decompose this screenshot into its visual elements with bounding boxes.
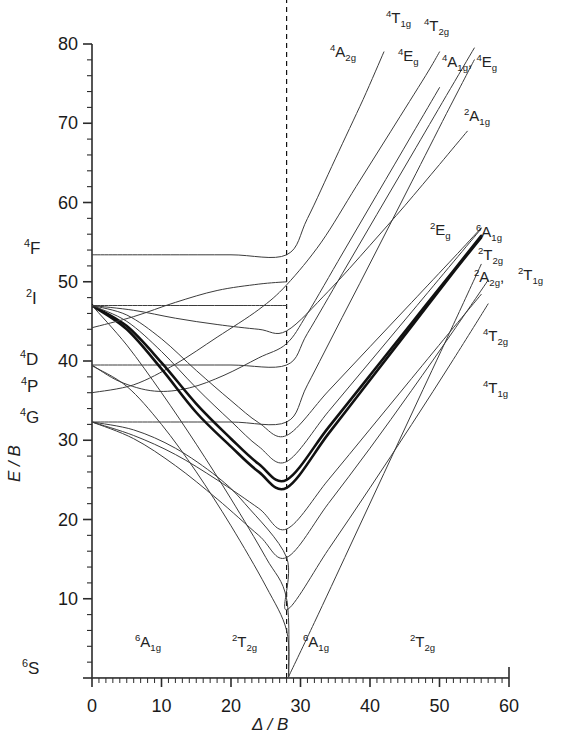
- curve-4Eg_D: [92, 88, 440, 392]
- x-tick-label: 10: [151, 696, 171, 716]
- term-label-4G: 4G: [20, 409, 39, 426]
- curve-label-2Eg: 2Eg: [430, 222, 451, 237]
- x-tick-label: 0: [87, 696, 97, 716]
- ground-label-2T2g-mid: 2T2g: [232, 634, 257, 649]
- curve-label-2T1g: 2T1g: [518, 267, 543, 282]
- ground-label-6A1g-mid: 6A1g: [303, 634, 329, 649]
- y-tick-label: 40: [58, 351, 78, 371]
- curve-label-6A1g-right: 6A1g: [476, 224, 502, 239]
- y-tick-label: 60: [58, 193, 78, 213]
- x-tick-label: 40: [360, 696, 380, 716]
- curve-label-4T2g-top: 4T2g: [424, 18, 449, 33]
- curve-label-4T2g-low: 4T2g: [483, 328, 508, 343]
- y-tick-label: 80: [58, 34, 78, 54]
- y-tick-label: 30: [58, 430, 78, 450]
- curve-4A1g4Eg_G: [92, 60, 474, 425]
- curve-label-2A2g: 2A2g,: [474, 269, 504, 284]
- x-tick-label: 30: [290, 696, 310, 716]
- y-tick-label: 10: [58, 589, 78, 609]
- curve-label-4A1g-4Eg: 4A1g, 4Eg: [442, 54, 497, 69]
- y-axis-title: E / B: [6, 432, 23, 496]
- term-label-2I: 2I: [26, 290, 37, 307]
- y-tick-label: 70: [58, 113, 78, 133]
- term-label-4F: 4F: [24, 240, 40, 257]
- ground-label-6A1g-left: 6A1g: [135, 634, 161, 649]
- curve-6A1g_rise: [289, 264, 482, 676]
- curve-label-4Eg: 4Eg: [398, 48, 419, 63]
- curve-label-2A1g: 2A1g: [464, 108, 490, 123]
- ground-label-2T2g-right: 2T2g: [410, 634, 435, 649]
- term-label-4D: 4D: [20, 351, 38, 368]
- term-label-6S: 6S: [22, 660, 39, 677]
- x-axis-title: Δ / B: [252, 716, 288, 733]
- x-tick-label: 60: [499, 696, 519, 716]
- y-tick-label: 20: [58, 510, 78, 530]
- curve-label-2T2g-right: 2T2g: [478, 247, 503, 262]
- curve-4A2g_F: [92, 52, 384, 258]
- curve-label-4T1g-top: 4T1g: [386, 10, 411, 25]
- curve-label-4A2g: 4A2g: [330, 44, 356, 59]
- tanabe-sugano-diagram: 01020304050601020304050607080 E / B Δ / …: [0, 0, 561, 751]
- curve-4T1g_low2: [92, 306, 289, 677]
- term-label-4P: 4P: [21, 378, 38, 395]
- curve-2T2g_descend: [92, 366, 289, 677]
- curve-label-4T1g-low: 4T1g: [483, 380, 508, 395]
- x-tick-label: 20: [221, 696, 241, 716]
- y-tick-label: 50: [58, 272, 78, 292]
- x-tick-label: 50: [429, 696, 449, 716]
